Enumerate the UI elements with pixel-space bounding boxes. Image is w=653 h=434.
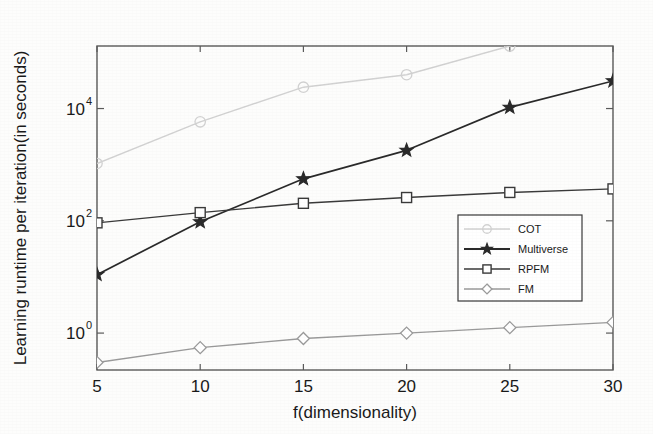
diamond-marker xyxy=(401,327,413,339)
chart-legend[interactable]: COTMultiverseRPFMFM xyxy=(458,215,582,301)
square-marker xyxy=(298,198,308,208)
x-tick-label: 15 xyxy=(294,377,313,396)
x-tick-label: 30 xyxy=(604,377,623,396)
plot-frame xyxy=(97,46,613,370)
svg-text:0: 0 xyxy=(86,319,92,331)
x-tick-label: 25 xyxy=(500,377,519,396)
star-marker xyxy=(297,172,310,185)
series-fm xyxy=(91,316,619,368)
svg-text:4: 4 xyxy=(86,95,92,107)
axes-box xyxy=(97,46,613,370)
svg-text:10: 10 xyxy=(66,212,85,231)
square-marker xyxy=(505,187,515,197)
square-marker xyxy=(92,218,102,228)
series-layer xyxy=(90,19,619,369)
legend-label: FM xyxy=(518,283,534,295)
axis-ticks xyxy=(97,46,613,370)
x-axis-title: f(dimensionality) xyxy=(293,403,417,422)
y-tick-label: 102 xyxy=(66,207,92,231)
line-chart: 51015202530100102104 f(dimensionality)Le… xyxy=(0,0,653,434)
y-axis-title: Learning runtime per iteration(in second… xyxy=(11,51,30,366)
figure-canvas: 51015202530100102104 f(dimensionality)Le… xyxy=(0,0,653,434)
legend-label: Multiverse xyxy=(518,243,568,255)
diamond-marker xyxy=(91,356,103,368)
star-marker xyxy=(503,100,516,113)
square-marker xyxy=(402,193,412,203)
legend-label: RPFM xyxy=(518,263,549,275)
star-marker xyxy=(400,143,413,156)
diamond-marker xyxy=(504,322,516,334)
legend-label: COT xyxy=(518,223,542,235)
diamond-marker xyxy=(297,333,309,345)
series-line xyxy=(97,19,613,164)
series-line xyxy=(97,322,613,362)
x-tick-label: 10 xyxy=(191,377,210,396)
square-marker xyxy=(195,208,205,218)
diamond-marker xyxy=(194,342,206,354)
y-tick-label: 104 xyxy=(66,95,92,119)
svg-text:10: 10 xyxy=(66,100,85,119)
series-cot xyxy=(92,19,613,169)
y-tick-label: 100 xyxy=(66,319,92,343)
svg-text:2: 2 xyxy=(86,207,92,219)
diamond-marker xyxy=(607,316,619,328)
square-marker xyxy=(608,184,618,194)
x-tick-label: 20 xyxy=(397,377,416,396)
x-tick-label: 5 xyxy=(92,377,101,396)
svg-text:10: 10 xyxy=(66,324,85,343)
square-marker xyxy=(483,265,491,273)
